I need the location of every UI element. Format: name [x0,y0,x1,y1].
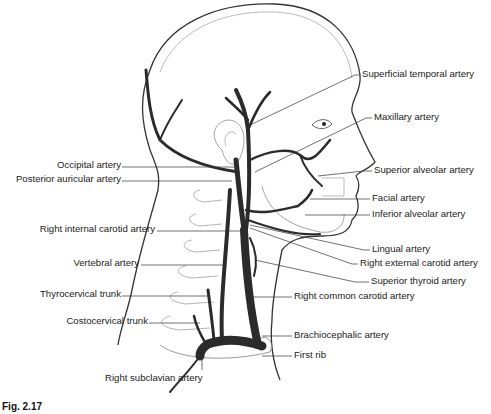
teeth [322,178,344,196]
label-first-rib: First rib [294,349,326,360]
label-facial-artery: Facial artery [372,192,425,203]
superior-thyroid [250,238,256,276]
figure-caption: Fig. 2.17 [2,401,42,412]
head-outline [150,4,375,380]
common-carotid [244,230,258,345]
label-superficial-temporal-artery: Superficial temporal artery [362,68,474,79]
label-lingual-artery: Lingual artery [372,243,430,254]
label-superior-alveolar-artery: Superior alveolar artery [374,164,474,175]
label-thyrocervical-trunk: Thyrocervical trunk [40,288,121,299]
back-of-head-outline [118,70,159,345]
eye [312,120,332,129]
facial [246,190,312,212]
label-right-internal-carotid-artery: Right internal carotid artery [40,223,155,234]
costocervical [194,316,206,344]
label-posterior-auricular-artery: Posterior auricular artery [16,173,121,184]
label-maxillary-artery: Maxillary artery [374,111,439,122]
label-brachiocephalic-artery: Brachiocephalic artery [294,329,389,340]
mandible [262,186,344,232]
label-vertebral-artery: Vertebral artery [73,257,139,268]
cervical-vertebrae [162,190,222,330]
ear [214,120,244,164]
anatomy-illustration [0,0,491,414]
label-costocervical-trunk: Costocervical trunk [66,315,148,326]
maxillary [250,140,330,160]
skull-inner-line [160,12,352,78]
thyrocervical [208,290,214,340]
label-right-external-carotid-artery: Right external carotid artery [360,257,478,268]
label-occipital-artery: Occipital artery [57,159,121,170]
label-inferior-alveolar-artery: Inferior alveolar artery [372,208,465,219]
brachiocephalic [200,340,262,356]
label-right-subclavian-artery: Right subclavian artery [105,372,203,383]
label-right-common-carotid-artery: Right common carotid artery [294,290,415,301]
label-superior-thyroid-artery: Superior thyroid artery [371,275,466,286]
